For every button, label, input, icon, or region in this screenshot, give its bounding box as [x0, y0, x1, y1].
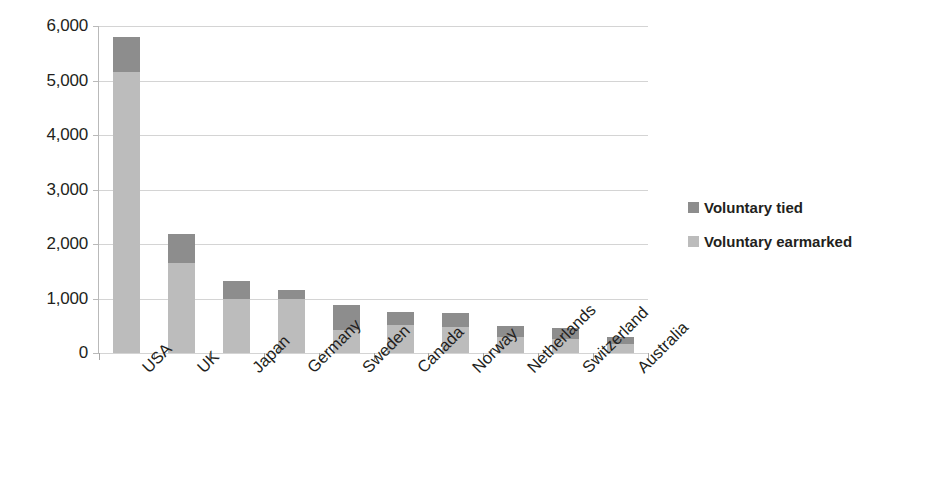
y-tick-mark — [93, 26, 99, 27]
bar-segment-voluntary-tied[interactable] — [168, 234, 195, 263]
y-tick-mark — [93, 81, 99, 82]
bar-segment-voluntary-earmarked[interactable] — [223, 299, 250, 353]
bar-group[interactable] — [333, 26, 360, 353]
x-axis-tick-label: Sweden — [359, 364, 371, 376]
legend-item[interactable]: Voluntary tied — [688, 200, 803, 215]
x-axis-tick-label: Switzerland — [579, 364, 591, 376]
bar-group[interactable] — [223, 26, 250, 353]
bar-group[interactable] — [497, 26, 524, 353]
plot-area — [99, 26, 648, 353]
legend-item-label: Voluntary tied — [704, 200, 803, 215]
y-axis-tick-label: 0 — [79, 344, 88, 361]
legend-swatch-voluntary-earmarked — [688, 236, 699, 247]
y-axis-tick-label: 1,000 — [46, 290, 88, 307]
x-axis-tick-label: Norway — [469, 364, 481, 376]
y-axis-tick-label: 4,000 — [46, 126, 88, 143]
bar-group[interactable] — [278, 26, 305, 353]
x-tick-mark — [99, 353, 100, 360]
x-axis-tick-label: Australia — [634, 364, 646, 376]
legend-item[interactable]: Voluntary earmarked — [688, 234, 852, 249]
bar-group[interactable] — [607, 26, 634, 353]
bar-group[interactable] — [442, 26, 469, 353]
x-axis-tick-label: Canada — [414, 364, 426, 376]
bar-chart: 6,0005,0004,0003,0002,0001,0000 USAUKJap… — [0, 0, 932, 486]
y-tick-mark — [93, 135, 99, 136]
bar-segment-voluntary-tied[interactable] — [223, 281, 250, 299]
x-axis-tick-label: USA — [139, 364, 151, 376]
bar-group[interactable] — [552, 26, 579, 353]
y-tick-mark — [93, 190, 99, 191]
bar-group[interactable] — [113, 26, 140, 353]
legend-item-label: Voluntary earmarked — [704, 234, 852, 249]
y-axis-tick-label: 5,000 — [46, 72, 88, 89]
x-axis-tick-label: UK — [194, 364, 206, 376]
bar-segment-voluntary-earmarked[interactable] — [168, 263, 195, 353]
y-axis-tick-label: 6,000 — [46, 17, 88, 34]
x-axis-tick-label: Netherlands — [524, 364, 536, 376]
bar-segment-voluntary-earmarked[interactable] — [113, 72, 140, 353]
y-axis-tick-label: 3,000 — [46, 181, 88, 198]
y-axis-tick-label: 2,000 — [46, 235, 88, 252]
bar-group[interactable] — [168, 26, 195, 353]
x-axis-tick-label: Germany — [304, 364, 316, 376]
bar-segment-voluntary-tied[interactable] — [113, 37, 140, 72]
bar-segment-voluntary-tied[interactable] — [278, 290, 305, 299]
y-tick-mark — [93, 299, 99, 300]
bar-group[interactable] — [387, 26, 414, 353]
y-tick-mark — [93, 244, 99, 245]
x-axis-tick-label: Japan — [249, 364, 261, 376]
legend-swatch-voluntary-tied — [688, 202, 699, 213]
